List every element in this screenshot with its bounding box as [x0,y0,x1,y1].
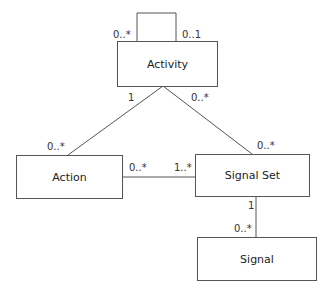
class-activity[interactable]: Activity [117,41,218,87]
multiplicity-activity-to-action: 1 [128,93,134,103]
class-signal-set-label: Signal Set [225,169,280,182]
class-signal-set[interactable]: Signal Set [195,154,310,197]
multiplicity-signal-set-from-activity: 0..* [257,141,275,151]
activity-action-association [68,86,163,155]
multiplicity-signal-set-from-action: 1..* [174,163,192,173]
multiplicity-activity-self-right: 0..1 [182,30,201,40]
class-signal-label: Signal [240,253,274,266]
class-activity-label: Activity [147,58,188,71]
multiplicity-action-from-activity: 0..* [47,142,65,152]
multiplicity-signal-set-to-signal: 1 [248,201,254,211]
class-action[interactable]: Action [16,155,123,199]
multiplicity-action-to-signal-set: 0..* [129,163,147,173]
activity-self-association [137,13,176,41]
multiplicity-activity-self-left: 0..* [113,30,131,40]
class-signal[interactable]: Signal [197,237,317,281]
multiplicity-activity-to-signal-set: 0..* [191,93,209,103]
multiplicity-signal-from-signal-set: 0..* [234,224,252,234]
class-action-label: Action [52,171,86,184]
